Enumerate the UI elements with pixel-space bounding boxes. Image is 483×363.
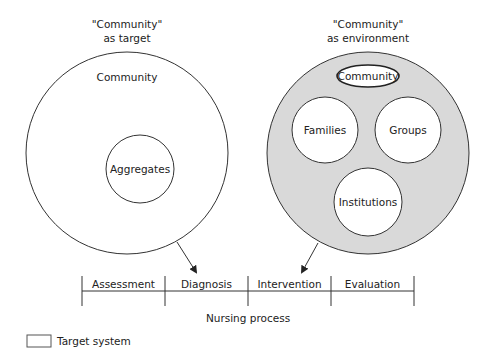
aggregates-label: Aggregates	[110, 163, 170, 175]
stage-assessment: Assessment	[92, 278, 155, 290]
stage-evaluation: Evaluation	[345, 278, 400, 290]
right-heading-line2: as environment	[327, 32, 409, 44]
community-as-target-panel: "Community" as target Community Aggregat…	[26, 18, 228, 272]
nursing-process-bar: Assessment Diagnosis Intervention Evalua…	[82, 276, 414, 324]
right-heading-line1: "Community"	[333, 18, 403, 30]
groups-label: Groups	[389, 124, 426, 136]
stage-diagnosis: Diagnosis	[181, 278, 232, 290]
process-caption: Nursing process	[206, 312, 290, 324]
arrow-to-intervention	[302, 243, 318, 272]
legend-label: Target system	[56, 335, 131, 347]
legend: Target system	[27, 335, 131, 347]
institutions-label: Institutions	[339, 196, 398, 208]
community-ellipse-label: Community	[338, 70, 399, 82]
community-label: Community	[97, 71, 158, 83]
left-heading-line1: "Community"	[92, 18, 162, 30]
community-as-environment-panel: "Community" as environment Community Fam…	[267, 18, 469, 272]
left-heading-line2: as target	[103, 32, 150, 44]
target-system-swatch	[27, 335, 51, 347]
arrow-to-diagnosis	[177, 242, 196, 272]
diagram-canvas: "Community" as target Community Aggregat…	[0, 0, 483, 363]
families-label: Families	[304, 124, 346, 136]
stage-intervention: Intervention	[257, 278, 321, 290]
